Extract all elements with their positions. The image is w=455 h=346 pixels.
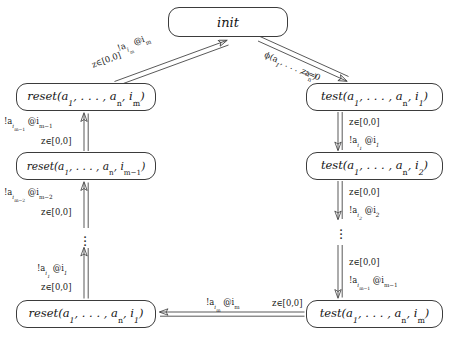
edge-label-test-i2-guard: z∈[0,0] <box>349 188 379 196</box>
node-test-im-label: test(a1, . . . , an, im) <box>320 308 430 320</box>
edge-reset-chain-mid <box>84 183 88 229</box>
edge-label-reset-chain-mid-action: !aim−2 @im−2 <box>4 188 53 199</box>
edge-test-i2-to-chain <box>338 181 342 219</box>
edge-label-reset-i1-action: !ai1 @i1 <box>37 264 67 275</box>
node-reset-im[interactable]: reset(a1, . . . , an, im) <box>16 83 156 111</box>
node-test-i1[interactable]: test(a1, . . . , an, i1) <box>306 83 443 111</box>
edge-test-chain-to-test-im <box>338 245 342 298</box>
edge-label-reset-im1-action: !aim−1 @im−1 <box>4 117 53 128</box>
edge-label-reset-i1-guard: z∈[0,0] <box>41 283 71 291</box>
node-reset-i1-label: reset(a1, . . . , an, i1) <box>29 308 144 320</box>
edge-label-test-i1-action: !ai1 @i1 <box>349 136 379 147</box>
node-init[interactable]: init <box>168 7 288 37</box>
edge-label-reset-im1-guard: z∈[0,0] <box>41 137 71 145</box>
edge-label-test-i1-guard: z∈[0,0] <box>349 118 379 126</box>
node-test-i2-label: test(a1, . . . , an, i2) <box>321 160 428 172</box>
node-test-i1-label: test(a1, . . . , an, i1) <box>321 91 428 103</box>
edge-label-test-chain-guard: z∈[0,0] <box>349 258 379 266</box>
edge-label-test-im-to-reset-i1-action: !aim @im <box>206 298 240 309</box>
node-reset-im-1[interactable]: reset(a1, . . . , an, im−1) <box>16 152 156 180</box>
edge-label-reset-chain-mid-guard: z∈[0,0] <box>41 208 71 216</box>
node-reset-im-label: reset(a1, . . . , an, im) <box>27 91 144 103</box>
node-test-im[interactable]: test(a1, . . . , an, im) <box>306 300 443 328</box>
diagram-canvas: init reset(a1, . . . , an, im) reset(a1,… <box>0 0 455 346</box>
edge-label-test-chain-action: !aim−1 @im−1 <box>349 276 398 287</box>
edge-reset-im1-to-reset-im <box>84 114 88 152</box>
edge-label-test-im-to-reset-i1-guard: z∈[0,0] <box>272 299 302 307</box>
node-reset-i1[interactable]: reset(a1, . . . , an, i1) <box>16 300 156 328</box>
reset-column-ellipsis: ··· <box>80 231 90 243</box>
node-init-label: init <box>217 16 239 29</box>
edge-test-i1-to-test-i2 <box>338 112 342 150</box>
edge-reset-i1-to-chain <box>84 248 88 299</box>
edge-label-test-i2-action: !ai2 @i2 <box>349 206 379 217</box>
test-column-ellipsis: ··· <box>336 224 346 236</box>
node-reset-im-1-label: reset(a1, . . . , an, im−1) <box>27 161 146 172</box>
node-test-i2[interactable]: test(a1, . . . , an, i2) <box>306 152 443 180</box>
edge-test-im-to-reset-i1 <box>160 312 305 316</box>
